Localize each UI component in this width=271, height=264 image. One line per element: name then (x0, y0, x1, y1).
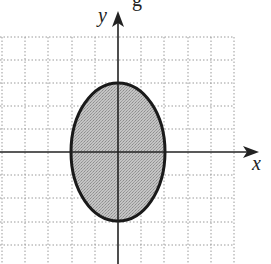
graph-figure: g y x (0, 0, 271, 264)
x-axis-label: x (251, 152, 261, 174)
cropped-caption-text: g (132, 0, 142, 11)
y-axis-label: y (96, 4, 107, 27)
